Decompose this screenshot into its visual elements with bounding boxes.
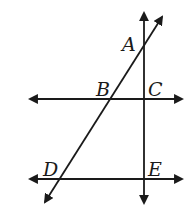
- label-e: E: [147, 158, 162, 180]
- label-d: D: [42, 158, 58, 180]
- label-b: B: [95, 78, 110, 100]
- label-a: A: [120, 33, 136, 55]
- label-c: C: [148, 78, 163, 100]
- geometry-diagram: A B C D E: [0, 0, 188, 219]
